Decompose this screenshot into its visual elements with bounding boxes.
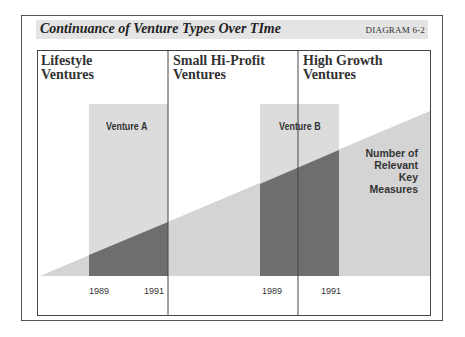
key-measures-line: Relevant <box>356 159 418 171</box>
key-measures-line: Key Measures <box>356 171 418 195</box>
key-measures-line: Number of <box>356 147 418 159</box>
column-heading-line: Lifestyle <box>41 54 94 68</box>
venture-b-start-year: 1989 <box>262 286 282 296</box>
column-heading-lifestyle: Lifestyle Ventures <box>41 54 94 82</box>
column-heading-line: Ventures <box>41 68 94 82</box>
key-measures-label: Number of Relevant Key Measures <box>356 147 418 195</box>
column-heading-line: Ventures <box>173 68 265 82</box>
column-heading-high-growth: High Growth Ventures <box>303 54 382 82</box>
column-heading-line: High Growth <box>303 54 382 68</box>
venture-a-end-year: 1991 <box>144 286 164 296</box>
column-heading-small-hi-profit: Small Hi-Profit Ventures <box>173 54 265 82</box>
column-heading-line: Small Hi-Profit <box>173 54 265 68</box>
venture-b-label: Venture B <box>279 120 321 132</box>
venture-a-start-year: 1989 <box>89 286 109 296</box>
column-heading-line: Ventures <box>303 68 382 82</box>
venture-a-label: Venture A <box>106 120 147 132</box>
venture-b-end-year: 1991 <box>321 286 341 296</box>
